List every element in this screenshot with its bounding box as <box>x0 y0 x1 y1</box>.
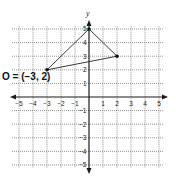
y-tick-label: 3 <box>83 53 87 60</box>
y-tick-label: 2 <box>83 66 87 73</box>
triangle-outline <box>47 29 117 70</box>
y-tick-label: −2 <box>79 121 87 128</box>
coordinate-plane: y −5−4−3−2−11234554321−1−2−3−4−5 O = (−3… <box>0 0 176 188</box>
y-tick-label: −4 <box>79 148 87 155</box>
x-tick-label: 3 <box>129 100 133 107</box>
x-tick-label: 4 <box>143 100 147 107</box>
y-tick-label: −1 <box>79 107 87 114</box>
axes: y <box>10 9 168 174</box>
x-tick-label: −4 <box>29 100 37 107</box>
y-axis-up-arrow-icon <box>87 20 92 26</box>
point-o-label: O = (−3, 2) <box>2 71 50 82</box>
x-tick-label: 2 <box>115 100 119 107</box>
x-tick-label: −1 <box>71 100 79 107</box>
x-tick-label: −3 <box>43 100 51 107</box>
y-axis-label: y <box>85 9 90 18</box>
x-axis-right-arrow-icon <box>162 95 168 100</box>
y-tick-label: −5 <box>79 161 87 168</box>
x-tick-label: −5 <box>15 100 23 107</box>
y-tick-label: 1 <box>83 80 87 87</box>
triangle <box>45 27 119 71</box>
y-tick-label: 4 <box>83 39 87 46</box>
x-tick-label: −2 <box>57 100 65 107</box>
x-tick-label: 5 <box>157 100 161 107</box>
y-axis-down-arrow-icon <box>87 168 92 174</box>
vertex-point <box>87 27 91 31</box>
vertex-point <box>115 54 119 58</box>
x-tick-label: 1 <box>101 100 105 107</box>
y-tick-label: −3 <box>79 134 87 141</box>
